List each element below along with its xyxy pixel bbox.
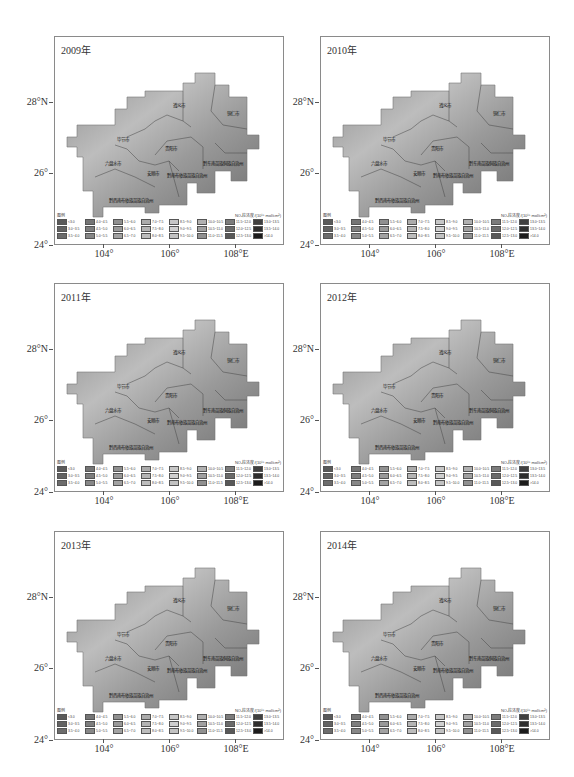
legend-item: 8.5~9.0 — [169, 218, 197, 225]
x-tick-label: 106° — [150, 495, 190, 506]
legend-label: 6.5~7.0 — [390, 234, 401, 238]
legend-item: 10.5~11.0 — [197, 720, 225, 727]
x-tick-label: 104° — [350, 248, 390, 259]
region-label-tongren: 铜仁市 — [227, 605, 240, 612]
legend-item: 3.0~3.5 — [57, 472, 85, 479]
legend-swatch — [379, 473, 389, 479]
legend-label: 3.0~3.5 — [334, 474, 345, 478]
legend-swatch — [85, 480, 95, 486]
legend-item: 9.0~9.5 — [435, 720, 463, 727]
legend-label: 11.5~12.0 — [236, 467, 251, 471]
legend-swatch — [379, 226, 389, 232]
y-tick-label: 24° — [8, 486, 48, 497]
legend-item: 12.5~13.0 — [491, 232, 519, 239]
legend-swatch — [85, 466, 95, 472]
legend-swatch — [323, 226, 333, 232]
legend-swatch — [85, 219, 95, 225]
y-tick-label: 28°N — [8, 591, 48, 602]
legend-label: 9.0~9.5 — [180, 227, 191, 231]
legend-label: 13.0~13.5 — [530, 467, 545, 471]
legend-item: 7.5~8.0 — [141, 225, 169, 232]
legend-label: 8.5~9.0 — [446, 467, 457, 471]
legend-item: 6.5~7.0 — [379, 479, 407, 486]
legend-item: 12.0~12.5 — [491, 472, 519, 479]
legend-swatch — [253, 233, 263, 239]
legend-swatch — [435, 480, 445, 486]
legend-item: 5.0~5.5 — [351, 232, 379, 239]
legend-label: >14.0 — [264, 481, 273, 485]
legend-swatch — [225, 219, 235, 225]
legend-item: 4.5~5.0 — [351, 720, 379, 727]
legend-label: 7.5~8.0 — [152, 722, 163, 726]
map-panel-0: 遵义市 铜仁市 毕节市 贵阳市 黔东南苗族侗族自治州 六盘水市 安顺市 黔南布依… — [54, 36, 284, 245]
legend-label: 11.5~12.0 — [502, 467, 517, 471]
legend-swatch — [169, 219, 179, 225]
region-label-zunyi: 遵义市 — [439, 102, 452, 109]
legend-item: 10.5~11.0 — [197, 225, 225, 232]
legend-swatch — [519, 226, 529, 232]
province-raster — [67, 568, 259, 712]
x-tick-label: 108°E — [482, 248, 522, 259]
legend-swatch — [197, 728, 207, 734]
x-tick-label: 108°E — [482, 495, 522, 506]
legend-label: 12.5~13.0 — [236, 481, 251, 485]
legend-item: <3.0 — [57, 218, 85, 225]
legend-label: 10.5~11.0 — [474, 474, 489, 478]
y-tick-label: 26° — [274, 167, 314, 178]
legend-swatch — [169, 473, 179, 479]
legend-label: 11.5~12.0 — [236, 715, 251, 719]
legend-item: <3.0 — [57, 465, 85, 472]
legend-label: <3.0 — [334, 220, 341, 224]
legend-swatch — [435, 219, 445, 225]
legend-item: 7.5~8.0 — [141, 720, 169, 727]
legend-swatch — [379, 233, 389, 239]
legend-swatch — [379, 721, 389, 727]
region-label-qiannan: 黔南布依族苗族自治州 — [433, 172, 474, 179]
legend-swatch — [57, 466, 67, 472]
legend-label: >14.0 — [264, 234, 273, 238]
legend-label: 10.0~10.5 — [208, 715, 223, 719]
legend-swatch — [379, 219, 389, 225]
legend-swatch — [225, 466, 235, 472]
region-label-anshun: 安顺市 — [413, 665, 426, 672]
legend-item: >14.0 — [253, 479, 281, 486]
legend-swatch — [491, 466, 501, 472]
x-tick-label: 108°E — [216, 495, 256, 506]
legend-swatch — [351, 473, 361, 479]
legend-item: 3.5~4.0 — [323, 232, 351, 239]
legend-swatch — [113, 466, 123, 472]
legend-swatch — [169, 226, 179, 232]
legend-swatch — [379, 714, 389, 720]
region-label-qiannan: 黔南布依族苗族自治州 — [167, 667, 208, 674]
region-label-qianxinan: 黔西南布依族苗族自治州 — [375, 197, 420, 204]
region-label-qiandongnan: 黔东南苗族侗族自治州 — [203, 160, 244, 167]
legend-label: 9.5~10.0 — [180, 729, 193, 733]
legend-grid: <3.03.0~3.53.5~4.04.0~4.54.5~5.05.0~5.55… — [57, 713, 281, 734]
region-label-zunyi: 遵义市 — [173, 102, 186, 109]
legend-swatch — [323, 233, 333, 239]
legend-item: 10.0~10.5 — [197, 218, 225, 225]
legend-label: 4.0~4.5 — [96, 715, 107, 719]
legend-swatch — [85, 728, 95, 734]
legend-swatch — [85, 233, 95, 239]
y-tick-label: 28°N — [274, 591, 314, 602]
legend-item: 4.5~5.0 — [351, 472, 379, 479]
region-label-bijie: 毕节市 — [117, 631, 130, 638]
legend-item: 8.5~9.0 — [169, 713, 197, 720]
legend-item: 8.0~8.5 — [141, 479, 169, 486]
legend-label: 11.5~12.0 — [502, 220, 517, 224]
legend-item: 9.5~10.0 — [169, 479, 197, 486]
legend-swatch — [141, 721, 151, 727]
legend-item: 11.5~12.0 — [491, 218, 519, 225]
legend-label: 6.0~6.5 — [390, 474, 401, 478]
legend-item: 6.5~7.0 — [113, 479, 141, 486]
legend-label: 4.5~5.0 — [362, 227, 373, 231]
legend-item: 11.0~11.5 — [197, 727, 225, 734]
legend-swatch — [491, 473, 501, 479]
legend-swatch — [113, 226, 123, 232]
region-label-tongren: 铜仁市 — [493, 110, 506, 117]
legend-item: >14.0 — [253, 232, 281, 239]
region-label-bijie: 毕节市 — [383, 631, 396, 638]
legend-swatch — [519, 473, 529, 479]
legend-label: <3.0 — [68, 715, 75, 719]
